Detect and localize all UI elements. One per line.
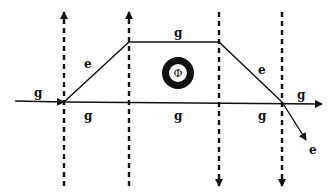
label-rise-e: e [84, 57, 92, 71]
label-top-g: g [174, 26, 183, 40]
label-outgoing-e: e [309, 143, 317, 157]
label-bottom-g-2: g [174, 109, 183, 123]
label-bottom-g-3: g [258, 109, 267, 123]
label-bottom-g-1: g [84, 109, 93, 123]
outgoing-e-line [282, 102, 306, 140]
label-fall-e: e [258, 63, 266, 77]
diagram-canvas: g e g e g g g g e Φ [0, 0, 333, 196]
label-incoming-g: g [34, 86, 43, 100]
label-outgoing-g: g [297, 88, 306, 102]
incoming-g-line [15, 101, 64, 102]
label-phi: Φ [173, 67, 182, 80]
